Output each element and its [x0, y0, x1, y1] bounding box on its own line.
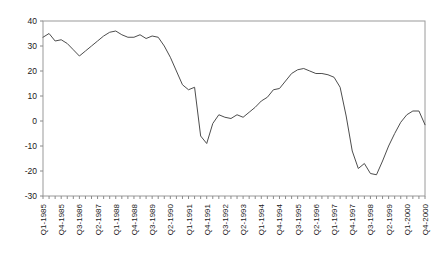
x-tick-label: Q3-1989 [148, 203, 157, 235]
x-tick-label: Q4-1994 [275, 203, 284, 235]
y-tick-label: -20 [25, 166, 38, 176]
x-tick-label: Q3-1986 [75, 203, 84, 235]
y-tick-label: 10 [28, 91, 38, 101]
x-axis-tick-labels: Q1-1985Q4-1985Q3-1986Q2-1987Q1-1988Q4-19… [39, 203, 430, 235]
x-tick-label: Q1-1997 [330, 203, 339, 235]
y-axis-ticks: -30-20-10010203040 [25, 16, 43, 201]
x-tick-label: Q4-1988 [130, 203, 139, 235]
y-tick-label: -30 [25, 191, 38, 201]
x-tick-label: Q3-1998 [366, 203, 375, 235]
x-tick-label: Q3-1992 [221, 203, 230, 235]
line-chart: -30-20-10010203040 Q1-1985Q4-1985Q3-1986… [0, 0, 443, 274]
x-tick-label: Q2-1990 [166, 203, 175, 235]
chart-container: -30-20-10010203040 Q1-1985Q4-1985Q3-1986… [0, 0, 443, 274]
x-tick-label: Q4-1985 [57, 203, 66, 235]
x-tick-label: Q1-1991 [185, 203, 194, 235]
x-tick-label: Q1-1988 [112, 203, 121, 235]
y-tick-label: -10 [25, 141, 38, 151]
y-tick-label: 20 [28, 66, 38, 76]
y-tick-label: 40 [28, 16, 38, 26]
x-tick-label: Q2-1999 [385, 203, 394, 235]
y-tick-label: 30 [28, 41, 38, 51]
x-tick-label: Q1-2000 [403, 203, 412, 235]
x-tick-label: Q2-1987 [94, 203, 103, 235]
x-tick-label: Q4-1991 [203, 203, 212, 235]
x-tick-label: Q2-1996 [312, 203, 321, 235]
x-tick-label: Q2-1993 [239, 203, 248, 235]
x-tick-label: Q4-1997 [348, 203, 357, 235]
y-tick-label: 0 [32, 116, 37, 126]
x-tick-label: Q1-1985 [39, 203, 48, 235]
x-tick-label: Q3-1995 [294, 203, 303, 235]
x-tick-label: Q4-2000 [421, 203, 430, 235]
x-tick-label: Q1-1994 [257, 203, 266, 235]
